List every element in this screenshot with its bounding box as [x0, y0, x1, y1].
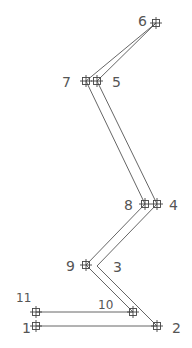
node-marker-icon: [30, 320, 42, 332]
node-label-7: 7: [62, 74, 71, 90]
member-5-6: [97, 23, 156, 81]
node-label-1: 1: [22, 320, 31, 336]
node-marker-icon: [80, 75, 92, 87]
node-label-5: 5: [112, 74, 121, 90]
node-label-10: 10: [98, 298, 113, 312]
node-label-6: 6: [138, 13, 147, 29]
member-7-8: [86, 81, 145, 204]
node-label-11: 11: [16, 291, 31, 305]
node-label-2: 2: [172, 320, 181, 336]
member-2-3: [97, 266, 157, 326]
node-label-9: 9: [66, 258, 75, 274]
member-4-5: [97, 81, 157, 204]
node-labels: 1234567891011: [16, 13, 181, 336]
node-marker-icon: [30, 306, 42, 318]
frame-diagram: 1234567891011: [0, 0, 192, 348]
member-6-7: [86, 23, 156, 81]
frame-members: [36, 23, 157, 326]
member-8-9: [86, 204, 145, 265]
node-label-4: 4: [169, 197, 178, 213]
member-3-4: [97, 204, 157, 266]
node-label-8: 8: [124, 197, 133, 213]
node-label-3: 3: [113, 259, 122, 275]
